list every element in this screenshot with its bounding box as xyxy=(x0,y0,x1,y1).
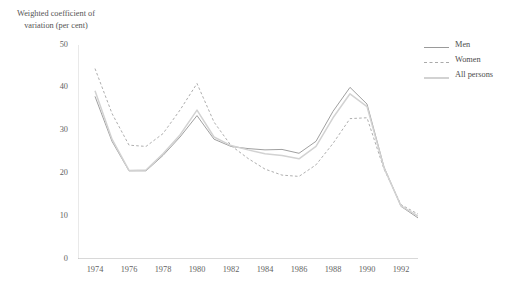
series-line-all-persons xyxy=(95,91,418,216)
chart-legend: MenWomenAll persons xyxy=(424,40,518,85)
chart-page: Weighted coefficient of variation (per c… xyxy=(0,0,520,293)
legend-label: Women xyxy=(455,55,481,64)
y-axis-tick-label: 0 xyxy=(44,254,68,263)
legend-label: Men xyxy=(455,40,470,49)
legend-label: All persons xyxy=(455,70,493,79)
y-axis-tick-label: 10 xyxy=(44,211,68,220)
x-axis-tick-label: 1992 xyxy=(384,265,418,274)
legend-item: All persons xyxy=(424,70,518,85)
x-axis-tick-label: 1980 xyxy=(180,265,214,274)
x-axis-tick-label: 1986 xyxy=(282,265,316,274)
y-axis-tick-label: 20 xyxy=(44,168,68,177)
x-axis-tick-label: 1976 xyxy=(112,265,146,274)
legend-line-swatch xyxy=(424,47,449,48)
line-chart-svg xyxy=(78,45,418,259)
x-axis-tick-label: 1984 xyxy=(248,265,282,274)
x-axis-tick-label: 1988 xyxy=(316,265,350,274)
x-axis-tick-label: 1990 xyxy=(350,265,384,274)
y-axis-tick-label: 50 xyxy=(44,40,68,49)
legend-item: Men xyxy=(424,40,518,55)
legend-item: Women xyxy=(424,55,518,70)
x-axis-tick-label: 1978 xyxy=(146,265,180,274)
x-axis-tick-label: 1974 xyxy=(78,265,112,274)
series-line-women xyxy=(95,69,418,215)
series-line-men xyxy=(95,87,418,218)
legend-line-swatch xyxy=(424,62,449,63)
x-axis-tick-label: 1982 xyxy=(214,265,248,274)
legend-line-swatch xyxy=(424,77,449,79)
y-axis-tick-label: 30 xyxy=(44,125,68,134)
plot-area xyxy=(78,45,418,259)
y-axis-tick-label: 40 xyxy=(44,82,68,91)
y-axis-title: Weighted coefficient of variation (per c… xyxy=(4,8,108,31)
